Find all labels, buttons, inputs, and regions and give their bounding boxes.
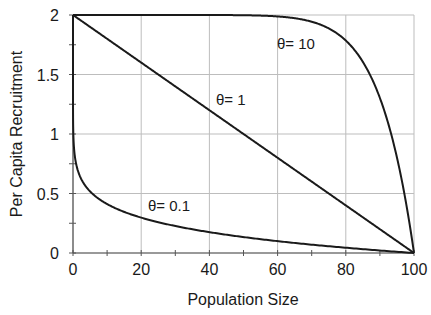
x-tick-label: 80 — [337, 261, 355, 278]
tick-labels: 02040608010000.511.52 — [37, 7, 428, 278]
y-tick-label: 0 — [50, 245, 59, 262]
annotation-theta-10: θ= 10 — [277, 35, 315, 52]
y-tick-label: 0.5 — [37, 186, 59, 203]
x-axis-label: Population Size — [187, 291, 298, 308]
y-axis-label: Per Capita Recruitment — [8, 50, 25, 217]
y-tick-label: 1 — [50, 126, 59, 143]
axes — [69, 15, 414, 256]
x-tick-label: 100 — [401, 261, 428, 278]
x-tick-label: 40 — [201, 261, 219, 278]
x-tick-label: 0 — [69, 261, 78, 278]
y-tick-label: 1.5 — [37, 67, 59, 84]
chart: 02040608010000.511.52 θ= 10 θ= 1 θ= 0.1 … — [0, 0, 431, 315]
x-tick-label: 60 — [269, 261, 287, 278]
annotation-theta-0-1: θ= 0.1 — [148, 197, 190, 214]
x-tick-label: 20 — [132, 261, 150, 278]
y-tick-label: 2 — [50, 7, 59, 24]
annotation-theta-1: θ= 1 — [216, 91, 246, 108]
